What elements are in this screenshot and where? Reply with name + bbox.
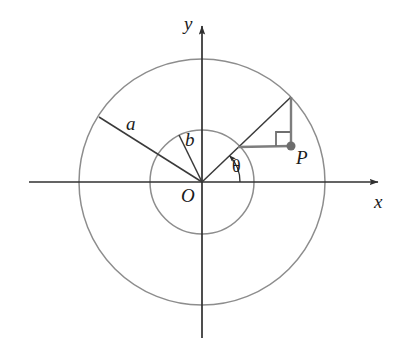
theta-ray <box>202 97 291 182</box>
y-axis-label: y <box>184 14 192 33</box>
origin-label: O <box>181 186 195 205</box>
radius-a-label: a <box>126 114 136 133</box>
geometry-figure: x y O a b θ P <box>0 0 398 344</box>
horizontal-construction-line <box>238 146 291 147</box>
radius-b-label: b <box>185 130 195 149</box>
point-p-dot <box>287 142 296 151</box>
point-p-label: P <box>296 148 308 167</box>
theta-angle-label: θ <box>232 157 241 175</box>
diagram-canvas <box>0 0 398 344</box>
x-axis-label: x <box>374 192 382 211</box>
